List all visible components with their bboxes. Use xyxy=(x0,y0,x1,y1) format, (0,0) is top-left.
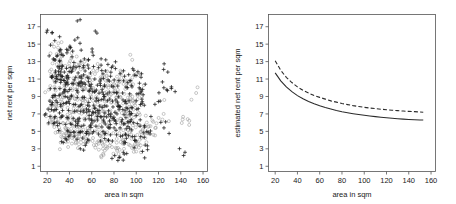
data-point-circle xyxy=(167,120,170,123)
data-point-circle xyxy=(79,68,82,71)
y-tick-label: 5 xyxy=(31,127,35,136)
data-point-cross xyxy=(56,124,60,128)
data-point-cross xyxy=(72,103,76,107)
data-point-cross xyxy=(50,31,54,35)
data-point-cross xyxy=(102,118,106,122)
data-point-circle xyxy=(77,143,80,146)
data-point-circle xyxy=(70,142,73,145)
data-point-circle xyxy=(107,121,110,124)
data-point-circle xyxy=(82,139,85,142)
data-point-circle xyxy=(116,75,119,78)
data-point-cross xyxy=(113,154,117,158)
data-point-circle xyxy=(66,140,69,143)
y-tick-label: 3 xyxy=(31,144,35,153)
y-tick-label: 13 xyxy=(255,57,263,66)
x-tick-label: 100 xyxy=(130,176,143,185)
data-point-cross xyxy=(134,114,138,118)
x-tick-label: 160 xyxy=(197,176,210,185)
x-tick-label: 80 xyxy=(110,176,118,185)
data-point-circle xyxy=(76,93,79,96)
y-tick-label: 11 xyxy=(256,75,264,84)
data-point-circle xyxy=(66,113,69,116)
data-point-cross xyxy=(107,113,111,117)
data-point-circle xyxy=(57,117,60,120)
data-point-circle xyxy=(113,89,116,92)
data-point-cross xyxy=(149,115,153,119)
data-point-cross xyxy=(104,58,108,62)
data-point-circle xyxy=(129,53,132,56)
data-point-cross xyxy=(97,66,101,70)
data-point-cross xyxy=(59,104,63,108)
y-tick-label: 11 xyxy=(28,75,36,84)
data-point-cross xyxy=(158,99,162,103)
data-point-circle xyxy=(75,63,78,66)
data-point-cross xyxy=(118,155,122,159)
data-point-cross xyxy=(157,91,161,95)
data-point-cross xyxy=(120,118,124,122)
data-point-cross xyxy=(78,41,82,45)
data-point-circle xyxy=(60,41,63,44)
data-point-circle xyxy=(51,62,54,65)
y-tick-label: 1 xyxy=(259,162,263,171)
data-point-cross xyxy=(92,65,96,69)
data-point-cross xyxy=(79,48,83,52)
data-point-circle xyxy=(137,146,140,149)
y-tick-label: 15 xyxy=(255,40,263,49)
data-point-cross xyxy=(107,109,111,113)
data-point-circle xyxy=(155,122,158,125)
data-point-cross xyxy=(99,115,103,119)
data-point-cross xyxy=(125,152,129,156)
data-point-circle xyxy=(120,112,123,115)
lower-estimate-curve xyxy=(275,73,423,120)
data-point-circle xyxy=(131,76,134,79)
data-point-cross xyxy=(82,64,86,68)
data-point-cross xyxy=(54,69,58,73)
x-tick-label: 100 xyxy=(358,176,371,185)
data-point-circle xyxy=(190,98,193,101)
data-point-cross xyxy=(93,77,97,81)
data-point-cross xyxy=(102,114,106,118)
data-point-circle xyxy=(96,62,99,65)
data-point-circle xyxy=(180,122,183,125)
data-point-circle xyxy=(157,116,160,119)
data-point-cross xyxy=(99,63,103,67)
data-point-cross xyxy=(164,120,168,124)
data-point-cross xyxy=(71,49,75,53)
data-point-cross xyxy=(165,88,169,92)
data-point-circle xyxy=(163,98,166,101)
data-point-cross xyxy=(107,90,111,94)
data-point-cross xyxy=(83,69,87,73)
data-point-circle xyxy=(128,103,131,106)
data-point-circle xyxy=(92,69,95,72)
data-point-cross xyxy=(143,82,147,86)
data-point-cross xyxy=(92,119,96,123)
data-point-circle xyxy=(86,135,89,138)
scatter-plot-svg: 1357911131517 20406080100120140160 area … xyxy=(0,0,228,204)
data-point-circle xyxy=(97,148,100,151)
data-point-circle xyxy=(188,123,191,126)
data-point-cross xyxy=(110,157,114,161)
data-point-circle xyxy=(122,102,125,105)
data-point-cross xyxy=(141,93,145,97)
upper-estimate-curve xyxy=(275,61,423,112)
data-point-circle xyxy=(136,133,139,136)
data-point-circle xyxy=(161,118,164,121)
data-point-cross xyxy=(106,63,110,67)
data-point-cross xyxy=(162,126,166,130)
data-point-circle xyxy=(96,69,99,72)
y-axis-ticks: 1357911131517 xyxy=(255,22,268,171)
x-tick-label: 40 xyxy=(293,176,301,185)
data-point-cross xyxy=(58,35,62,39)
y-tick-label: 3 xyxy=(259,144,263,153)
y-tick-label: 7 xyxy=(31,110,35,119)
data-point-cross xyxy=(99,57,103,61)
y-axis-title: estimated net rent per sqm xyxy=(233,48,242,137)
data-point-circle xyxy=(54,89,57,92)
data-point-cross xyxy=(127,73,131,77)
data-point-cross xyxy=(114,128,118,132)
data-point-circle xyxy=(70,136,73,139)
data-point-cross xyxy=(123,74,127,78)
data-point-cross xyxy=(112,78,116,82)
x-tick-label: 120 xyxy=(152,176,165,185)
data-point-circle xyxy=(126,96,129,99)
